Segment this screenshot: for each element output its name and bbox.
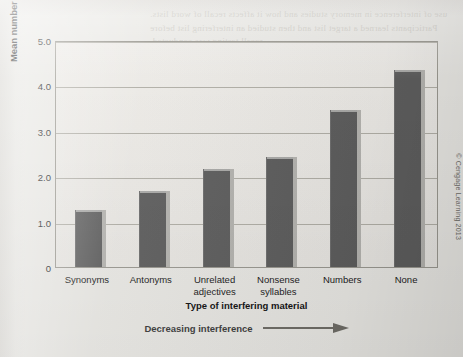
bar-right-highlight [293, 157, 297, 267]
bar-top-highlight [395, 70, 421, 72]
y-tick-label: 3.0 [11, 126, 51, 137]
bar-top-highlight [76, 210, 102, 212]
scanned-figure-page: use of interference in memory studies an… [0, 0, 463, 357]
bar-right-highlight [230, 169, 234, 267]
bar-right-highlight [421, 70, 425, 267]
bar [330, 110, 357, 267]
bar [203, 169, 230, 267]
plot-area [55, 41, 438, 268]
bar [75, 210, 102, 267]
x-axis-title: Type of interfering material [55, 300, 438, 311]
gridline [56, 178, 437, 179]
x-tick-label: None [368, 274, 444, 286]
right-arrow-icon [263, 322, 349, 334]
bar-top-highlight [267, 157, 293, 159]
gridline [56, 87, 437, 88]
y-tick-label: 2.0 [11, 172, 51, 183]
y-axis-title: Mean number of test items recalled [8, 0, 19, 62]
bar-right-highlight [166, 191, 170, 267]
y-tick-label: 1.0 [11, 217, 51, 228]
bar-right-highlight [102, 210, 106, 267]
copyright-credit: © Cengage Learning 2013 [455, 153, 462, 240]
bar [139, 191, 166, 267]
bar-top-highlight [331, 110, 357, 112]
bar [266, 157, 293, 267]
gridline [56, 133, 437, 134]
annotation-label: Decreasing interference [144, 323, 252, 334]
bar [394, 70, 421, 267]
decreasing-interference-annotation: Decreasing interference [55, 322, 438, 334]
bar-top-highlight [204, 169, 230, 171]
gridline [56, 224, 437, 225]
bar-chart-figure: Mean number of test items recalled 01.02… [0, 0, 463, 357]
bar-right-highlight [357, 110, 361, 267]
gridline [56, 42, 437, 43]
y-tick-label: 4.0 [11, 81, 51, 92]
y-tick-label: 5.0 [11, 36, 51, 47]
bar-top-highlight [140, 191, 166, 193]
y-tick-label: 0 [11, 263, 51, 274]
